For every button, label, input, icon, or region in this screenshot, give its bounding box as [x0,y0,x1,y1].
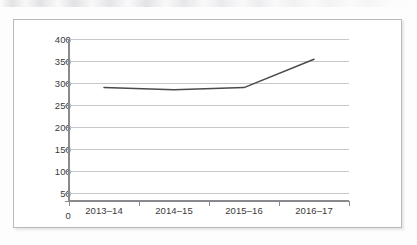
scan-artifact-strip [0,0,417,7]
x-axis-tick-label: 2013–14 [69,206,139,216]
plot-area [14,20,403,229]
data-series-line [104,59,314,89]
line-chart: 400 350 300 250 200 150 100 50 0 [14,20,403,229]
chart-frame: 400 350 300 250 200 150 100 50 0 [13,19,402,228]
x-axis-tick-label: 2015–16 [209,206,279,216]
x-axis-tick-label: 2014–15 [139,206,209,216]
x-axis-tick-label: 2016–17 [279,206,349,216]
